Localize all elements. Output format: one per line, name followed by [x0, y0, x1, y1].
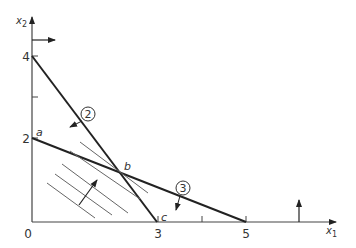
constraint-label-2: 2 [81, 107, 95, 121]
lp-diagram: 2 3 a b c 0 3 5 4 2 x2 x1 [0, 0, 356, 248]
svg-text:3: 3 [180, 182, 187, 195]
contour-line [47, 183, 95, 218]
x-tick-label-3: 3 [154, 227, 162, 241]
constraint-3-feasible-arrow [176, 196, 180, 210]
point-label-a: a [36, 126, 43, 139]
constraint-2-feasible-arrow [70, 121, 82, 127]
origin-label: 0 [24, 227, 32, 241]
x1-axis-label: x1 [325, 225, 337, 239]
point-label-b: b [124, 160, 131, 173]
y-tick-label-2: 2 [22, 132, 30, 146]
point-label-c: c [161, 211, 167, 224]
svg-text:2: 2 [85, 108, 92, 121]
objective-contours [47, 142, 148, 218]
x-tick-label-5: 5 [242, 227, 250, 241]
constraint-line-2 [32, 56, 157, 222]
constraint-label-3: 3 [176, 181, 190, 195]
y-tick-label-4: 4 [22, 50, 30, 64]
x2-axis-label: x2 [15, 15, 27, 29]
